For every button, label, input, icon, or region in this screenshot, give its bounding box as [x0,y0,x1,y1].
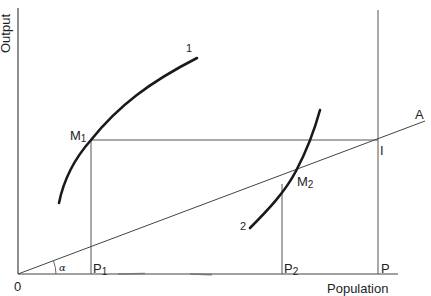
label-i: I [380,144,384,157]
angle-arc [54,261,57,274]
origin-label: 0 [14,280,21,293]
label-p1-main: P [93,261,102,276]
label-m1: M1 [70,129,86,144]
label-a: A [415,108,424,121]
curve-1-label: 1 [186,43,192,54]
label-p1: P1 [93,262,107,277]
label-m2-sub: 2 [308,179,314,190]
axis-smudge [118,274,145,275]
angle-alpha-label: α [59,263,66,273]
label-m2-main: M [297,174,308,189]
label-m1-sub: 1 [81,133,87,144]
axis-smudge [190,274,212,275]
label-m1-main: M [70,128,81,143]
curve-2 [250,110,320,228]
x-axis-label: Population [327,282,388,295]
label-p2: P2 [284,262,298,277]
label-m2: M2 [297,175,313,190]
diagram-canvas [0,0,431,296]
y-axis-label: Output [0,14,13,53]
label-p1-sub: 1 [102,266,108,277]
label-p2-sub: 2 [293,266,299,277]
curve-2-label: 2 [240,221,246,232]
label-p: P [381,262,390,275]
label-p2-main: P [284,261,293,276]
